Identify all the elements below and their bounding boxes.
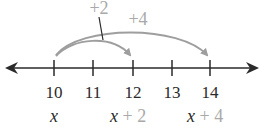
expression-x-plus-4: x + 4 — [186, 106, 223, 126]
number-line-diagram: 10 11 12 13 14 x x + 2 x + 4 +2 +4 — [0, 0, 267, 132]
tick-label-14: 14 — [202, 83, 220, 102]
number-line-axis — [5, 62, 259, 74]
tick-label-13: 13 — [164, 83, 181, 102]
tick-label-12: 12 — [125, 83, 142, 102]
jump-arc-plus-2 — [56, 41, 130, 56]
label-leader-line — [99, 17, 103, 40]
tick-label-11: 11 — [85, 83, 101, 102]
tick-label-10: 10 — [46, 83, 63, 102]
tick-labels: 10 11 12 13 14 — [46, 83, 220, 102]
jump-label-plus-2: +2 — [89, 0, 108, 18]
jump-label-plus-4: +4 — [128, 9, 147, 29]
expression-x-var: x — [49, 106, 58, 126]
expression-x: x — [49, 106, 58, 126]
expression-labels: x x + 2 x + 4 — [49, 106, 223, 126]
expression-x-plus-2: x + 2 — [109, 106, 146, 126]
